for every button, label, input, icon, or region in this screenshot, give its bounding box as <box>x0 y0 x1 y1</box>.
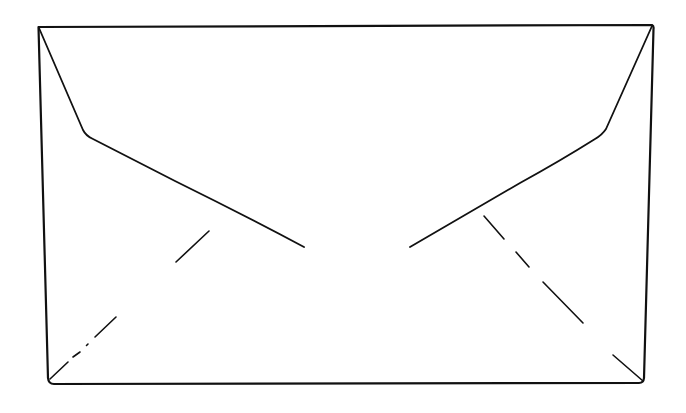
top-flap-right-edge <box>410 26 652 247</box>
right-fold-line <box>484 216 643 381</box>
envelope-diagram <box>0 0 686 413</box>
envelope-outline <box>39 25 654 384</box>
top-flap-left-edge <box>39 28 304 247</box>
left-fold-line <box>50 231 209 379</box>
